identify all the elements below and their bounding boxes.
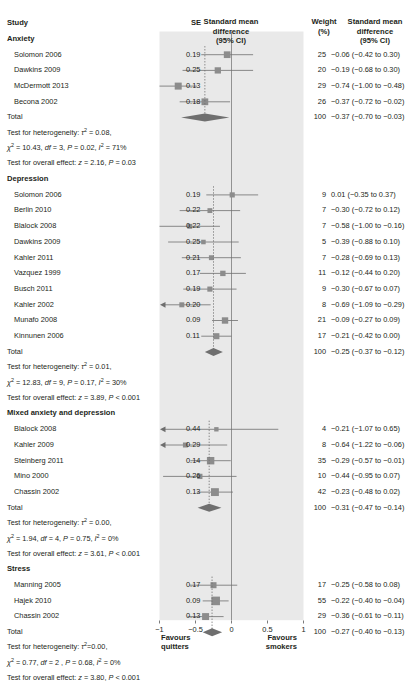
study-se-value: 0.22 [186,221,200,230]
heterogeneity-line: Test for overall effect: z = 3.89, P < 0… [7,393,140,402]
study-ci-value: −0.22 (−0.40 to −0.04) [331,596,404,605]
group-heading-4: Stress [7,564,30,573]
study-ci-value: −0.21 (−1.07 to 0.65) [331,424,400,433]
study-marker [175,83,182,90]
group-total-ci-value: −0.31 (−0.47 to −0.14) [331,503,404,512]
study-se-value: 0.18 [186,97,200,106]
axis-tick-label: 0 [229,625,233,634]
study-ci-value: −0.25 (−0.58 to 0.08) [331,580,400,589]
study-ci-value: −0.21 (−0.42 to 0.00) [331,331,400,340]
study-se-value: 0.44 [186,424,200,433]
column-header-study: Study [7,18,28,27]
study-ci-value: −0.69 (−1.09 to −0.29) [331,300,404,309]
study-se-value: 0.19 [186,190,200,199]
study-se-value: 0.09 [186,596,200,605]
heterogeneity-line: Test for heterogeneity: τ2 = 0.00, [7,518,112,527]
study-se-value: 0.13 [186,611,200,620]
study-marker [224,51,231,58]
study-name: Hajek 2010 [14,596,51,605]
axis-tick-label: 1 [301,625,305,634]
study-name: Kinnunen 2006 [14,331,64,340]
study-name: Berlin 2010 [14,205,51,214]
study-name: Becona 2002 [14,97,58,106]
study-name: Mino 2000 [14,471,49,480]
heterogeneity-line: Test for overall effect: z = 2.16, P = 0… [7,158,136,167]
study-name: Steinberg 2011 [14,456,64,465]
study-se-value: 0.26 [186,471,200,480]
study-ci-value: −0.09 (−0.27 to 0.09) [331,315,400,324]
study-name: Dawkins 2009 [14,237,60,246]
study-marker [202,613,209,620]
study-name: Solomon 2006 [14,50,62,59]
study-ci-value: −0.06 (−0.42 to 0.30) [331,50,400,59]
heterogeneity-line: Test for heterogeneity: τ2 = 0.08, [7,128,112,137]
study-marker [213,333,219,339]
study-name: Kahler 2002 [14,300,54,309]
group-heading-3: Mixed anxiety and depression [7,408,115,417]
study-se-value: 0.13 [186,487,200,496]
study-marker [210,582,216,588]
study-ci-value: −0.12 (−0.44 to 0.20) [331,268,400,277]
pooled-estimate-diamond [203,628,222,636]
study-name: Busch 2011 [14,284,53,293]
group-total-ci-value: −0.25 (−0.37 to −0.12) [331,347,404,356]
axis-tick-label: −1 [155,625,163,634]
study-marker [201,240,206,245]
study-marker [207,287,212,292]
study-name: Manning 2005 [14,580,61,589]
study-marker [179,302,184,307]
study-name: McDermott 2013 [14,81,69,90]
study-marker [215,67,221,73]
study-se-value: 0.25 [186,65,200,74]
study-se-value: 0.21 [186,253,200,262]
group-total-label: Total [7,112,23,121]
study-se-value: 0.22 [186,205,200,214]
study-marker [211,488,219,496]
study-ci-value: −0.29 (−0.57 to −0.01) [331,456,404,465]
study-marker [222,317,228,323]
study-ci-value: −0.58 (−1.00 to −0.16) [331,221,404,230]
study-ci-value: −0.37 (−0.72 to −0.02) [331,97,404,106]
axis-tick-label: 0.5 [262,625,272,634]
study-ci-value: −0.23 (−0.48 to 0.02) [331,487,400,496]
study-name: Kahler 2009 [14,440,54,449]
study-ci-value: −0.36 (−0.61 to −0.11) [331,611,404,620]
group-total-label: Total [7,347,23,356]
study-ci-value: 0.01 (−0.35 to 0.37) [331,190,396,199]
study-marker [214,427,218,431]
heterogeneity-line: Test for heterogeneity: τ2 = 0.01, [7,362,112,371]
study-se-value: 0.09 [186,315,200,324]
group-total-label: Total [7,627,23,636]
group-total-label: Total [7,503,23,512]
heterogeneity-line: Test for overall effect: z = 3.80, P < 0… [7,673,140,682]
study-ci-value: −0.30 (−0.67 to 0.07) [331,284,400,293]
study-se-value: 0.25 [186,237,200,246]
study-marker [209,255,214,260]
study-name: Chassin 2002 [14,487,59,496]
study-marker [207,457,214,464]
group-heading-2: Depression [7,174,48,183]
column-header-weight: Weight(%) [311,17,336,36]
study-ci-value: −0.74 (−1.00 to −0.48) [331,81,404,90]
group-total-ci-value: −0.27 (−0.40 to −0.13) [331,627,404,636]
heterogeneity-line: χ2 = 10.43, df = 3, P = 0.02, I2 = 71% [7,143,127,152]
study-se-value: 0.19 [186,50,200,59]
axis-tick-label: −0.5 [188,625,203,634]
group-total-ci-value: −0.37 (−0.70 to −0.03) [331,112,404,121]
axis-footnote-left: Favoursquitters [161,633,191,652]
study-name: Chassin 2002 [14,611,59,620]
heterogeneity-line: χ2 = 12.83, df = 9, P = 0.17, I2 = 30% [7,378,127,387]
heterogeneity-line: Test for overall effect: z = 3.61, P < 0… [7,549,140,558]
column-header-plot-title: Standard meandifference(95% CI) [204,17,259,46]
study-se-value: 0.13 [186,81,200,90]
study-name: Blalock 2008 [14,221,56,230]
axis-footnote-right: Favourssmokers [266,633,297,652]
study-name: Kahler 2011 [14,253,53,262]
study-se-value: 0.14 [186,456,200,465]
study-ci-value: −0.39 (−0.88 to 0.10) [331,237,400,246]
study-se-value: 0.17 [186,268,200,277]
study-name: Solomon 2006 [14,190,62,199]
study-se-value: 0.17 [186,580,200,589]
study-name: Dawkins 2009 [14,65,60,74]
study-marker [207,208,212,213]
